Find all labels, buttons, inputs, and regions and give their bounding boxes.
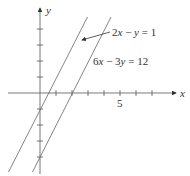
x-tick-label-5: 5 (117, 97, 123, 109)
line-2x-minus-y-eq-1 (9, 17, 88, 172)
x-axis-label: x (179, 87, 185, 99)
equation-label-line2: 6x − 3y = 12 (93, 55, 148, 67)
line-6x-minus-3y-eq-12 (33, 17, 112, 172)
annotation-arrow (82, 32, 110, 40)
equation-label-line1: 2x − y = 1 (112, 26, 156, 38)
graph-canvas: x y 5 2x − y = 1 6x − 3y = 12 (0, 0, 190, 176)
y-axis-label: y (45, 4, 51, 16)
